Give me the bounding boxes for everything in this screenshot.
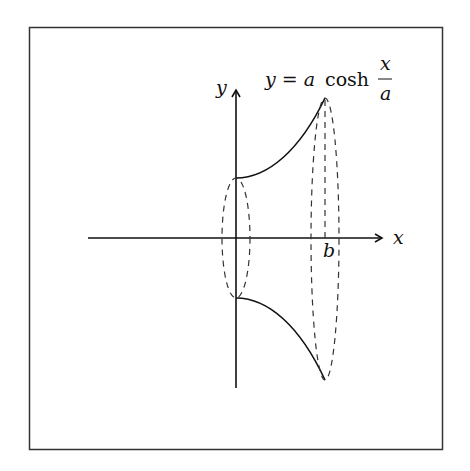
- equation-lhs: y = a: [264, 68, 315, 90]
- equation-func: cosh: [325, 68, 369, 90]
- equation-denominator: a: [380, 82, 391, 104]
- x-axis-label: x: [393, 226, 404, 248]
- equation-numerator: x: [380, 52, 391, 74]
- b-tick-label: b: [323, 239, 335, 261]
- catenoid-diagram: y x b y = a cosh x a: [0, 0, 470, 471]
- y-axis-label: y: [215, 76, 227, 98]
